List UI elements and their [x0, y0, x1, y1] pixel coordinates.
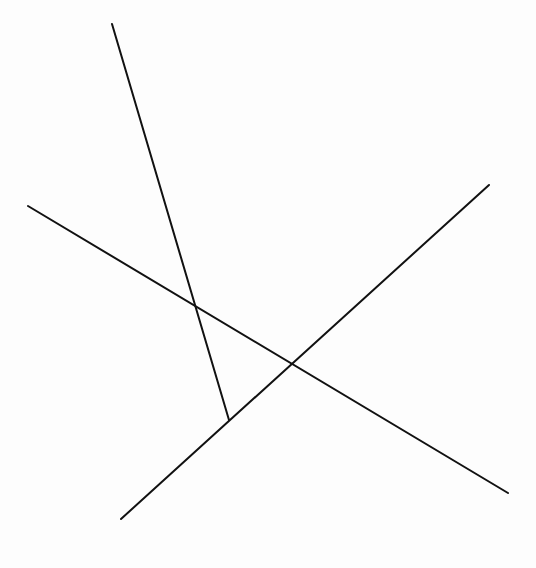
diagram-canvas [0, 0, 536, 568]
three-line-triangle-diagram [0, 0, 536, 568]
line-c [121, 185, 489, 519]
line-a [112, 24, 229, 420]
line-b [28, 206, 508, 493]
